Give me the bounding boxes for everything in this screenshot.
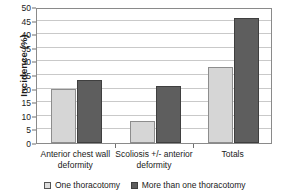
legend-item[interactable]: One thoracotomy — [44, 180, 120, 190]
y-axis-tick-label: 50 — [22, 3, 31, 13]
y-axis-tick-label: 15 — [22, 98, 31, 108]
x-axis-category-label: Anterior chest wall deformity — [36, 149, 115, 170]
legend-swatch-icon — [131, 182, 138, 189]
x-axis-category-label: Totals — [193, 149, 272, 160]
x-axis-category-label: Scoliosis +/- anterior deformity — [115, 149, 194, 170]
bar-one-thoracotomy — [208, 67, 233, 143]
x-axis-tick-mark — [115, 144, 116, 148]
bars-layer — [37, 9, 271, 143]
y-axis-tick-label: 20 — [22, 85, 31, 95]
bar-more-than-one-thoracotomy — [77, 80, 102, 143]
y-axis-ticks: 05101520253035404550 — [0, 8, 36, 144]
y-axis-tick-label: 35 — [22, 44, 31, 54]
y-axis-tick-label: 0 — [26, 139, 31, 149]
plot-area — [36, 8, 272, 144]
legend-label: One thoracotomy — [55, 180, 120, 190]
y-axis-tick-label: 45 — [22, 17, 31, 27]
bar-one-thoracotomy — [130, 121, 155, 143]
bar-one-thoracotomy — [51, 89, 76, 143]
x-axis-tick-mark — [193, 144, 194, 148]
legend-item[interactable]: More than one thoracotomy — [131, 180, 245, 190]
y-axis-tick-label: 10 — [22, 112, 31, 122]
bar-more-than-one-thoracotomy — [156, 86, 181, 143]
chart-legend: One thoracotomyMore than one thoracotomy — [0, 180, 290, 190]
legend-label: More than one thoracotomy — [142, 180, 246, 190]
bar-more-than-one-thoracotomy — [234, 18, 259, 143]
bar-chart: Incidence (%) 05101520253035404550 Anter… — [0, 0, 290, 196]
y-axis-tick-label: 40 — [22, 30, 31, 40]
x-axis-labels: Anterior chest wall deformityScoliosis +… — [36, 149, 272, 175]
legend-swatch-icon — [44, 182, 51, 189]
y-axis-tick-label: 30 — [22, 57, 31, 67]
y-axis-tick-label: 25 — [22, 71, 31, 81]
y-axis-tick-label: 5 — [26, 125, 31, 135]
